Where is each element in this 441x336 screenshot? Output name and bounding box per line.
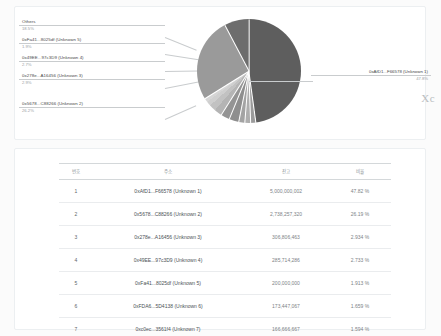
cell-no: 7 (59, 318, 93, 336)
cell-balance: 2,738,257,320 (243, 203, 329, 226)
legend-percent: 47.8% (311, 76, 431, 82)
table-header-row: 번호 주소 잔고 비율 (59, 164, 391, 180)
legend-percent: 2.9% (19, 80, 165, 86)
table-body: 1 0xAfD1...F66578 (Unknown 1) 5,000,000,… (59, 180, 391, 336)
cell-ratio: 1.594 % (329, 318, 391, 336)
legend-percent: 18.5% (19, 26, 165, 32)
cell-address[interactable]: 0xc0ec...3561f4 (Unknown 7) (93, 318, 243, 336)
holder-distribution-chart-card: Others 18.5% 0xFa41...8025df (Unknown 5)… (14, 6, 426, 140)
cell-balance: 285,714,286 (243, 249, 329, 272)
legend-item-others[interactable]: Others 18.5% (19, 19, 165, 32)
cell-no: 2 (59, 203, 93, 226)
cell-no: 1 (59, 180, 93, 203)
pie-legend-right[interactable]: 0xAfD1...F66578 (Unknown 1) 47.8% (311, 69, 431, 82)
cell-address[interactable]: 0x5678...C88266 (Unknown 2) (93, 203, 243, 226)
pie-separator (249, 19, 250, 71)
cell-balance: 306,806,463 (243, 226, 329, 249)
leader-line-others (165, 37, 197, 51)
column-header-address[interactable]: 주소 (93, 164, 243, 180)
cell-ratio: 26.19 % (329, 203, 391, 226)
cell-ratio: 1.913 % (329, 272, 391, 295)
leader-line-unknown-2 (165, 105, 196, 120)
table-row[interactable]: 5 0xFa41...8025df (Unknown 5) 200,000,00… (59, 272, 391, 295)
table-row[interactable]: 2 0x5678...C88266 (Unknown 2) 2,738,257,… (59, 203, 391, 226)
pie-chart[interactable] (197, 17, 301, 135)
legend-percent: 26.2% (19, 108, 165, 114)
cell-no: 3 (59, 226, 93, 249)
cell-no: 4 (59, 249, 93, 272)
table-header: 번호 주소 잔고 비율 (59, 164, 391, 180)
legend-item-unknown-2[interactable]: 0x5678...C88266 (Unknown 2) 26.2% (19, 101, 165, 114)
cell-balance: 200,000,000 (243, 272, 329, 295)
cell-ratio: 1.659 % (329, 295, 391, 318)
cell-balance: 166,666,667 (243, 318, 329, 336)
table-row[interactable]: 1 0xAfD1...F66578 (Unknown 1) 5,000,000,… (59, 180, 391, 203)
cell-address[interactable]: 0xAfD1...F66578 (Unknown 1) (93, 180, 243, 203)
legend-label: 0x278e...A16456 (Unknown 3) (19, 73, 165, 80)
cell-address[interactable]: 0x278e...A16456 (Unknown 3) (93, 226, 243, 249)
holder-table-card: 번호 주소 잔고 비율 1 0xAfD1...F66578 (Unknown 1… (14, 148, 426, 330)
legend-label: 0xAfD1...F66578 (Unknown 1) (311, 69, 431, 76)
leader-line-unknown-3 (165, 82, 199, 89)
legend-label: 0xFa41...8025df (Unknown 5) (19, 37, 165, 44)
legend-label: Others (19, 19, 165, 26)
holder-table: 번호 주소 잔고 비율 1 0xAfD1...F66578 (Unknown 1… (59, 163, 391, 336)
cell-ratio: 47.82 % (329, 180, 391, 203)
leader-line-unknown-5 (165, 54, 199, 60)
leader-line-unknown-4 (165, 70, 199, 72)
cell-balance: 173,447,067 (243, 295, 329, 318)
table-row[interactable]: 7 0xc0ec...3561f4 (Unknown 7) 166,666,66… (59, 318, 391, 336)
legend-item-unknown-3[interactable]: 0x278e...A16456 (Unknown 3) 2.9% (19, 73, 165, 86)
watermark-text: Xc (421, 92, 435, 104)
cell-address[interactable]: 0xFDA6...5D4138 (Unknown 6) (93, 295, 243, 318)
cell-no: 6 (59, 295, 93, 318)
legend-label: 0x5678...C88266 (Unknown 2) (19, 101, 165, 108)
cell-balance: 5,000,000,002 (243, 180, 329, 203)
column-header-ratio[interactable]: 비율 (329, 164, 391, 180)
table-row[interactable]: 4 0x49EE...97c3D9 (Unknown 4) 285,714,28… (59, 249, 391, 272)
cell-address[interactable]: 0x49EE...97c3D9 (Unknown 4) (93, 249, 243, 272)
leader-line-unknown-1 (249, 81, 313, 82)
cell-ratio: 2.733 % (329, 249, 391, 272)
legend-percent: 1.9% (19, 44, 165, 50)
table-row[interactable]: 6 0xFDA6...5D4138 (Unknown 6) 173,447,06… (59, 295, 391, 318)
column-header-no[interactable]: 번호 (59, 164, 93, 180)
legend-item-unknown-5[interactable]: 0xFa41...8025df (Unknown 5) 1.9% (19, 37, 165, 50)
table-row[interactable]: 3 0x278e...A16456 (Unknown 3) 306,806,46… (59, 226, 391, 249)
column-header-balance[interactable]: 잔고 (243, 164, 329, 180)
legend-item-unknown-4[interactable]: 0x49EE...97c3D9 (Unknown 4) 2.7% (19, 55, 165, 68)
cell-address[interactable]: 0xFa41...8025df (Unknown 5) (93, 272, 243, 295)
cell-ratio: 2.934 % (329, 226, 391, 249)
legend-percent: 2.7% (19, 62, 165, 68)
page-root: Others 18.5% 0xFa41...8025df (Unknown 5)… (0, 0, 441, 336)
cell-no: 5 (59, 272, 93, 295)
legend-label: 0x49EE...97c3D9 (Unknown 4) (19, 55, 165, 62)
